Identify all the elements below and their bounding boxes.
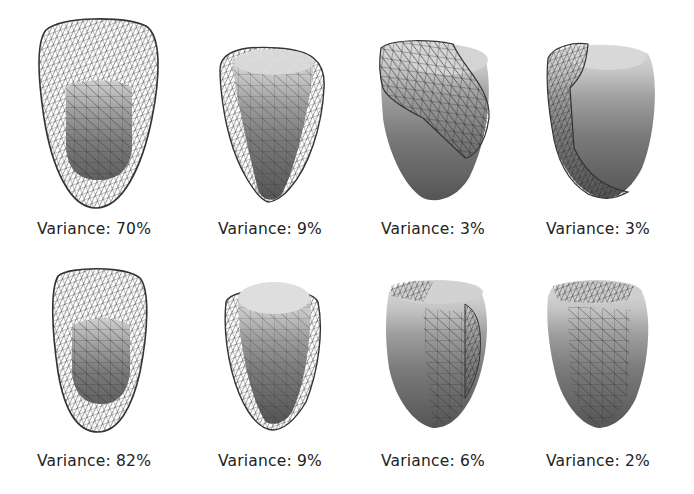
heart-solid-model: [518, 252, 678, 442]
shape-mode-panel-2-4: Variance: 2%: [518, 252, 678, 442]
variance-label: Variance: 9%: [190, 220, 350, 238]
variance-label: Variance: 3%: [353, 220, 513, 238]
heart-solid-model: [353, 8, 513, 218]
shape-mode-panel-2-3: Variance: 6%: [353, 252, 513, 442]
heart-wireframe-model: [14, 252, 174, 442]
variance-label: Variance: 82%: [14, 452, 174, 470]
shape-mode-panel-1-1: Variance: 70%: [14, 8, 174, 218]
variance-label: Variance: 2%: [518, 452, 678, 470]
shape-mode-panel-2-1: Variance: 82%: [14, 252, 174, 442]
heart-solid-model: [353, 252, 513, 442]
heart-solid-model: [518, 8, 678, 218]
variance-label: Variance: 3%: [518, 220, 678, 238]
heart-wireframe-model: [14, 8, 174, 218]
shape-mode-panel-2-2: Variance: 9%: [190, 252, 350, 442]
shape-mode-panel-1-4: Variance: 3%: [518, 8, 678, 218]
heart-solid-model: [190, 252, 350, 442]
shape-mode-panel-1-3: Variance: 3%: [353, 8, 513, 218]
variance-label: Variance: 6%: [353, 452, 513, 470]
variance-label: Variance: 70%: [14, 220, 174, 238]
shape-mode-panel-1-2: Variance: 9%: [190, 8, 350, 218]
heart-solid-model: [190, 8, 350, 218]
variance-label: Variance: 9%: [190, 452, 350, 470]
